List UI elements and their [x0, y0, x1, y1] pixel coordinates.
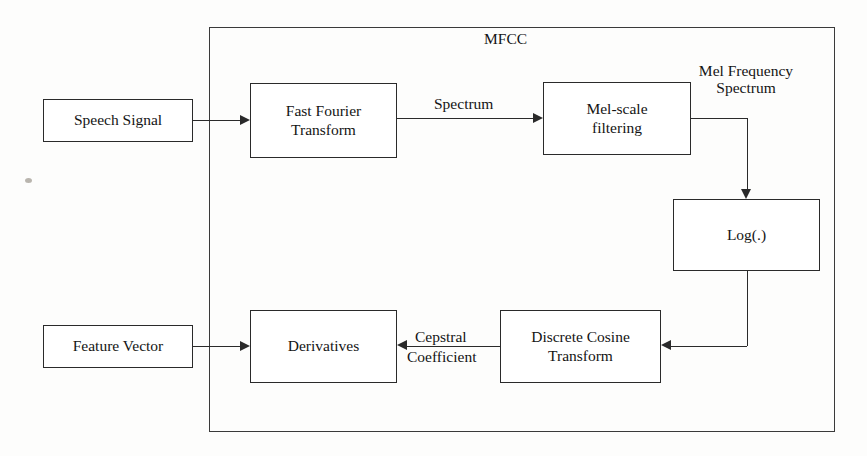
- edge-fft-to-mel-line: [397, 118, 534, 119]
- node-dct-label-line1: Discrete Cosine: [531, 328, 630, 346]
- mfcc-block-diagram: MFCC Speech Signal Fast Fourier Transfor…: [0, 0, 867, 456]
- edge-derivatives-to-feature-vector-line: [193, 346, 241, 347]
- node-derivatives[interactable]: Derivatives: [250, 310, 397, 383]
- node-fft-label-line2: Transform: [291, 121, 356, 139]
- node-feature-vector-label: Feature Vector: [73, 337, 164, 355]
- edge-dct-to-derivatives-line: [407, 346, 500, 347]
- node-feature-vector[interactable]: Feature Vector: [43, 325, 193, 368]
- scan-artifact-speck: [25, 178, 32, 183]
- node-speech-signal[interactable]: Speech Signal: [43, 99, 193, 142]
- edge-speech-to-fft-line: [193, 120, 241, 121]
- edge-mel-to-log-hsegment: [691, 118, 747, 119]
- edge-speech-to-fft-arrowhead: [240, 115, 250, 125]
- edge-mel-to-log-arrowhead: [741, 189, 751, 199]
- edge-label-mel-frequency-spectrum: Mel Frequency Spectrum: [686, 62, 806, 97]
- edge-label-cepstral-line2: Coefficient: [407, 348, 476, 365]
- node-speech-signal-label: Speech Signal: [74, 111, 162, 129]
- node-discrete-cosine-transform[interactable]: Discrete Cosine Transform: [500, 310, 661, 383]
- edge-log-to-dct-arrowhead: [661, 340, 671, 350]
- edge-log-to-dct-hsegment: [671, 346, 747, 347]
- node-log-label: Log(.): [727, 226, 766, 244]
- edge-label-mel-frequency-line1: Mel Frequency: [699, 62, 793, 79]
- edge-label-cepstral-line1: Cepstral: [415, 328, 467, 345]
- mfcc-group-label: MFCC: [481, 30, 530, 48]
- edge-log-to-dct-vsegment: [747, 271, 748, 346]
- node-fast-fourier-transform[interactable]: Fast Fourier Transform: [250, 83, 397, 158]
- edge-derivatives-to-feature-vector-arrowhead: [240, 341, 250, 351]
- node-mel-scale-filtering[interactable]: Mel-scale filtering: [543, 82, 691, 155]
- edge-label-mel-frequency-line2: Spectrum: [716, 79, 775, 96]
- edge-label-spectrum: Spectrum: [434, 95, 493, 112]
- node-mel-filtering-label-line1: Mel-scale: [586, 100, 647, 118]
- node-log[interactable]: Log(.): [673, 199, 820, 271]
- edge-dct-to-derivatives-arrowhead: [397, 340, 407, 350]
- node-fft-label-line1: Fast Fourier: [286, 102, 361, 120]
- node-derivatives-label: Derivatives: [288, 337, 359, 355]
- node-mel-filtering-label-line2: filtering: [592, 119, 642, 137]
- node-dct-label-line2: Transform: [548, 347, 613, 365]
- edge-mel-to-log-vsegment: [747, 118, 748, 190]
- edge-fft-to-mel-arrowhead: [533, 113, 543, 123]
